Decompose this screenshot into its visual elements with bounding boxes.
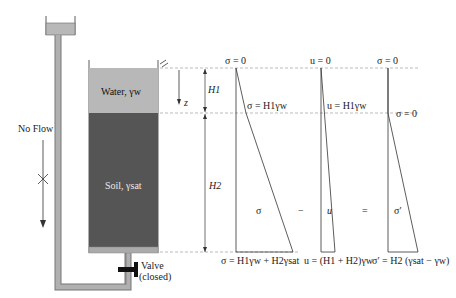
valve-state-label: (closed) — [139, 271, 171, 282]
pore-pressure-diagram — [321, 68, 335, 252]
minus-sign: − — [298, 205, 304, 216]
effective-stress-top-label: σ = 0 — [377, 55, 398, 66]
pore-pressure-mid-label: u = H1γw — [327, 100, 367, 111]
pore-pressure-bottom-label: u = (H1 + H2)γw — [304, 255, 373, 266]
h2-dimension-icon — [203, 114, 207, 252]
pore-pressure-top-label: u = 0 — [310, 55, 331, 66]
soil-label: Soil, γsat — [105, 180, 142, 191]
effective-stress-diagram — [388, 68, 418, 252]
total-stress-bottom-label: σ = H1γw + H2γsat — [221, 255, 299, 266]
pore-pressure-center-label: u — [327, 205, 332, 216]
effective-stress-center-label: σ′ — [394, 205, 402, 216]
z-depth-arrow-icon — [177, 70, 181, 105]
no-flow-arrow-icon — [38, 140, 48, 228]
total-stress-diagram — [236, 68, 293, 252]
water-surface-marker-icon — [160, 60, 168, 67]
h2-label: H2 — [209, 180, 221, 191]
water-label: Water, γw — [101, 86, 141, 97]
total-stress-top-label: σ = 0 — [225, 55, 246, 66]
total-stress-center-label: σ — [256, 205, 261, 216]
total-stress-mid-label: σ = H1γw — [247, 100, 287, 111]
no-flow-label: No Flow — [18, 123, 53, 134]
h1-label: H1 — [208, 84, 220, 95]
depth-z-label: z — [184, 97, 188, 108]
valve-label: Valve — [141, 260, 164, 271]
equals-sign: = — [362, 205, 368, 216]
stress-diagram-canvas — [0, 0, 456, 298]
effective-stress-mid-label: σ = 0 — [396, 108, 417, 119]
standpipe-reservoir — [46, 16, 75, 35]
porous-base-plate — [89, 247, 158, 253]
h1-dimension-icon — [203, 69, 207, 112]
effective-stress-bottom-label: σ′ = H2 (γsat − γw) — [372, 255, 449, 266]
